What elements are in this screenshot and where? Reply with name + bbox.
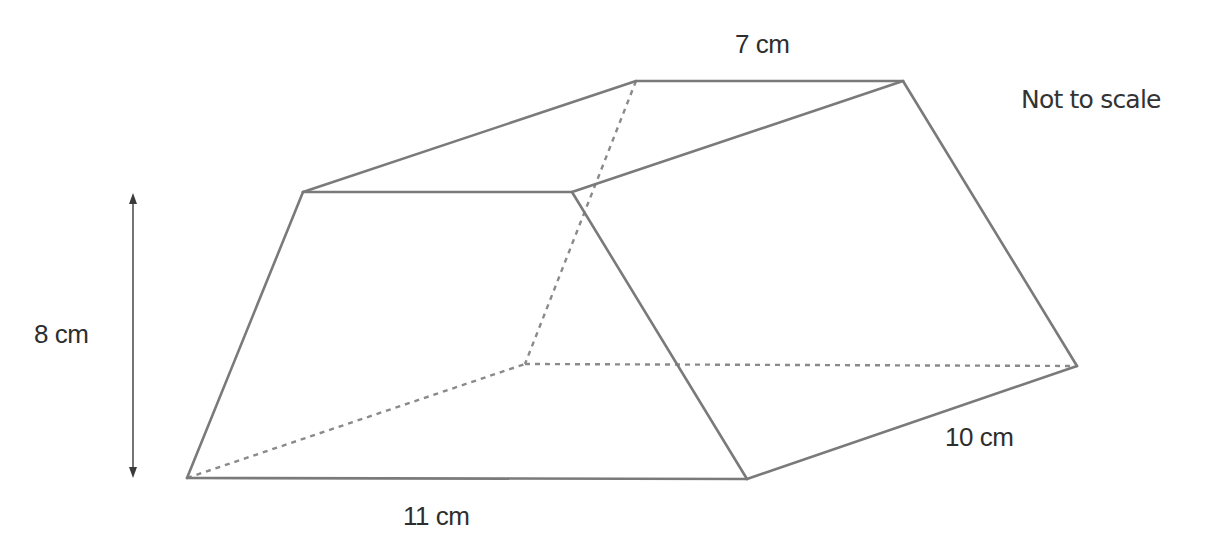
edge-front-left [187, 192, 303, 478]
edge-top-left-depth [303, 81, 636, 192]
edge-top-right-depth [572, 81, 903, 192]
edge-front-right [572, 192, 747, 479]
height-label: 8 cm [34, 321, 88, 347]
not-to-scale-note: Not to scale [1021, 87, 1161, 112]
edge-bottom-right-depth [747, 366, 1077, 479]
hidden-edge-back-left-vertical [525, 81, 636, 364]
depth-label: 10 cm [945, 424, 1013, 450]
visible-edges [187, 81, 1077, 479]
prism-diagram [0, 0, 1217, 555]
edge-front-bottom [187, 478, 747, 479]
edge-back-right [903, 81, 1077, 366]
bottom-edge-label: 11 cm [403, 503, 469, 529]
top-edge-label: 7 cm [735, 31, 789, 57]
height-dimension-arrow [129, 193, 137, 478]
arrow-up-icon [129, 193, 137, 204]
hidden-edge-bottom-left-depth [187, 364, 525, 478]
hidden-edges [187, 81, 1077, 478]
hidden-edge-back-bottom [525, 364, 1077, 366]
arrow-down-icon [129, 467, 137, 478]
